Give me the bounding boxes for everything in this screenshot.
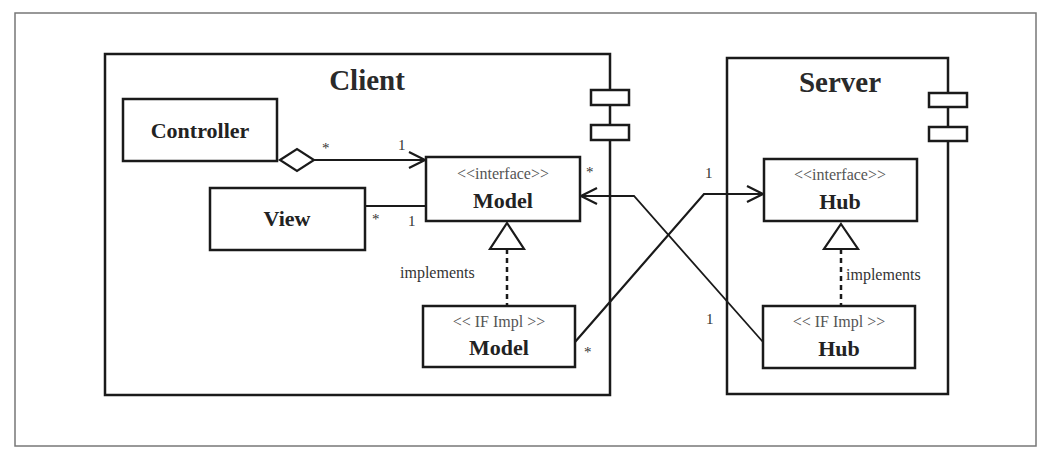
implements-label: implements [400,264,475,282]
multiplicity-label: * [586,164,594,180]
model-interface-stereotype: <<interface>> [457,165,549,182]
multiplicity-label: * [584,344,592,360]
view-class-name: View [264,206,311,231]
hub-impl-stereotype: << IF Impl >> [793,313,886,331]
component-tab-icon [591,90,629,105]
multiplicity-label: 1 [398,137,406,153]
view-class: View [210,188,365,250]
controller-model-aggregation: * 1 [280,137,425,171]
component-tab-icon [929,93,967,107]
model-realization: implements [400,223,524,306]
hub-impl-to-model-association: 1 * [581,164,763,342]
hub-interface-stereotype: <<interface>> [794,166,886,183]
controller-class-name: Controller [151,118,250,143]
implements-label: implements [846,266,921,284]
hub-realization: implements [824,224,921,306]
realization-triangle-icon [490,223,524,249]
model-impl-to-hub-association: * 1 [575,165,763,360]
multiplicity-label: 1 [706,311,714,327]
component-tab-icon [591,125,629,140]
model-impl-name: Model [469,335,529,360]
multiplicity-label: * [372,211,380,227]
hub-impl-class: << IF Impl >> Hub [763,306,915,368]
hub-interface-name: Hub [819,189,861,214]
server-title: Server [799,66,881,98]
client-title: Client [329,64,405,96]
model-impl-class: << IF Impl >> Model [423,306,575,367]
component-tab-icon [929,127,967,141]
model-impl-stereotype: << IF Impl >> [453,313,546,331]
uml-diagram: Client Server Controller View <<interfac… [0,0,1052,456]
controller-class: Controller [123,99,277,161]
hub-interface-class: <<interface>> Hub [764,159,917,221]
figure-frame [15,13,1036,446]
model-interface-class: <<interface>> Model [426,157,580,221]
realization-triangle-icon [824,224,858,249]
hub-impl-name: Hub [818,336,860,361]
multiplicity-label: 1 [408,213,416,229]
multiplicity-label: 1 [705,165,713,181]
view-model-association: * 1 [365,206,426,229]
aggregation-diamond-icon [280,149,314,171]
model-interface-name: Model [473,188,533,213]
multiplicity-label: * [322,140,330,156]
